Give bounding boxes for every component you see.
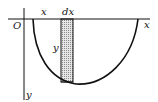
y-axis-label: y xyxy=(25,89,32,100)
diagram: O x dx x y y xyxy=(0,0,158,102)
dx-label: dx xyxy=(62,6,74,17)
dx-strip xyxy=(61,19,73,82)
curve xyxy=(33,19,138,84)
x-axis-label: x xyxy=(144,19,150,30)
origin-label: O xyxy=(13,20,21,31)
y-height-label: y xyxy=(52,42,59,53)
x-position-label: x xyxy=(41,6,47,17)
